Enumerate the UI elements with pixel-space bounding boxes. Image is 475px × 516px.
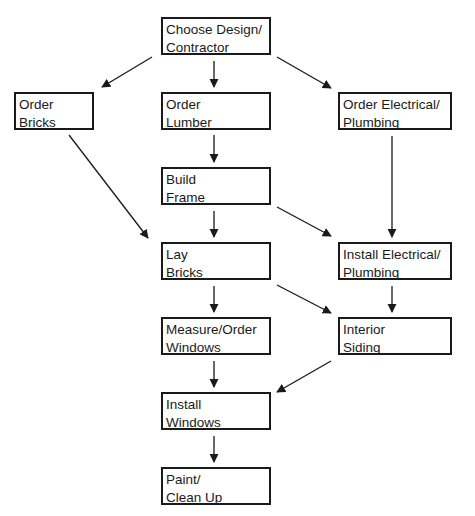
node-label-line: Plumbing	[343, 264, 447, 282]
node-paint-clean-up: Paint/ Clean Up	[161, 467, 271, 505]
node-label-line: Plumbing	[343, 114, 447, 132]
node-label-line: Order	[19, 96, 89, 114]
node-install-windows: Install Windows	[161, 392, 271, 430]
node-label-line: Measure/Order	[166, 321, 266, 339]
arrow-choose-to-elec_order	[277, 57, 331, 88]
node-label-line: Bricks	[19, 114, 89, 132]
node-label-line: Lay	[166, 246, 266, 264]
node-order-bricks: Order Bricks	[14, 92, 94, 130]
node-label-line: Interior	[343, 321, 447, 339]
node-lay-bricks: Lay Bricks	[161, 242, 271, 280]
node-label-line: Contractor	[166, 39, 266, 57]
node-label-line: Build	[166, 171, 266, 189]
node-label-line: Siding	[343, 339, 447, 357]
arrow-bricks-to-lay	[69, 135, 148, 238]
node-label-line: Windows	[166, 414, 266, 432]
node-label-line: Paint/	[166, 471, 266, 489]
arrow-choose-to-bricks	[102, 57, 152, 87]
node-label-line: Windows	[166, 339, 266, 357]
node-measure-order-windows: Measure/Order Windows	[161, 317, 271, 355]
node-label-line: Frame	[166, 189, 266, 207]
node-label-line: Install Electrical/	[343, 246, 447, 264]
node-label-line: Order Electrical/	[343, 96, 447, 114]
node-install-electrical-plumbing: Install Electrical/ Plumbing	[338, 242, 452, 280]
node-label-line: Lumber	[166, 114, 266, 132]
node-interior-siding: Interior Siding	[338, 317, 452, 355]
arrow-frame-to-elec_install	[277, 207, 331, 236]
node-order-lumber: Order Lumber	[161, 92, 271, 130]
node-label-line: Choose Design/	[166, 21, 266, 39]
arrow-lay-to-siding	[277, 285, 331, 313]
node-choose-design-contractor: Choose Design/ Contractor	[161, 17, 271, 55]
node-label-line: Bricks	[166, 264, 266, 282]
node-label-line: Install	[166, 396, 266, 414]
node-label-line: Clean Up	[166, 489, 266, 507]
node-label-line: Order	[166, 96, 266, 114]
arrow-siding-to-install_win	[277, 361, 331, 392]
node-build-frame: Build Frame	[161, 167, 271, 205]
node-order-electrical-plumbing: Order Electrical/ Plumbing	[338, 92, 452, 130]
